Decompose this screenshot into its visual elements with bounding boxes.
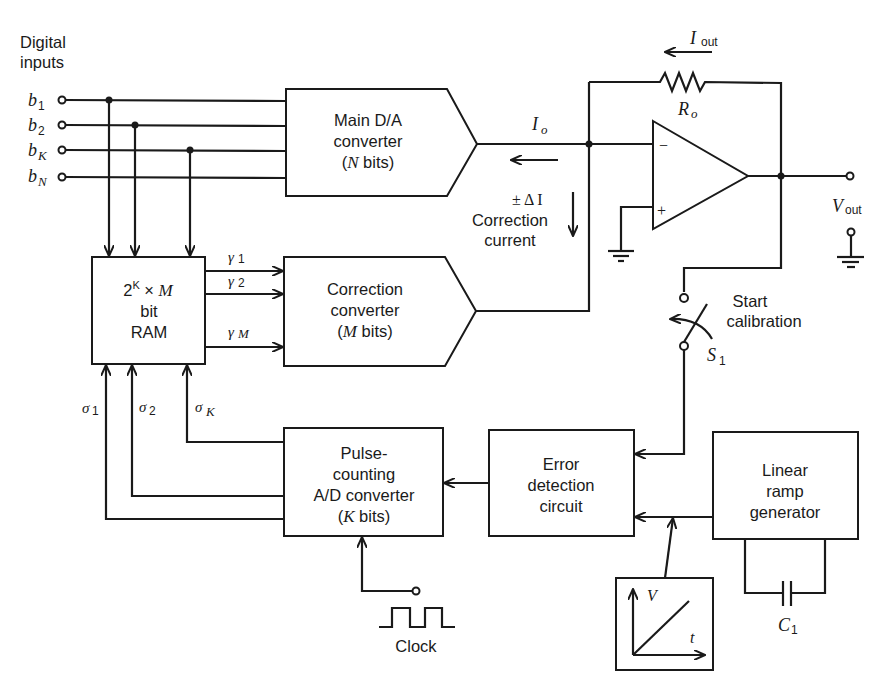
- ground-icon: [837, 257, 864, 267]
- svg-text:V: V: [832, 196, 845, 216]
- vout-label: V out: [832, 196, 862, 217]
- digital-inputs-label-1: Digital: [20, 33, 66, 51]
- svg-text:bit: bit: [140, 302, 158, 320]
- input-terminal-b1[interactable]: [59, 97, 66, 104]
- vout-terminal[interactable]: [847, 173, 854, 180]
- svg-text:R: R: [677, 99, 689, 119]
- switch-terminal-top: [680, 294, 688, 302]
- svg-text:1: 1: [92, 404, 99, 418]
- op-amp: − +: [653, 121, 748, 229]
- svg-text:1: 1: [791, 623, 798, 637]
- clock-terminal[interactable]: [413, 588, 420, 595]
- svg-text:(N bits): (N bits): [342, 153, 395, 172]
- bus-line-b1: [65, 100, 286, 101]
- clock-label: Clock: [395, 637, 437, 655]
- bit-label-b1: b 1: [28, 90, 45, 113]
- svg-text:γ: γ: [228, 273, 235, 289]
- svg-text:ramp: ramp: [766, 482, 804, 500]
- svg-text:2: 2: [149, 404, 156, 418]
- correction-current-label-2: current: [484, 231, 536, 249]
- svg-text:generator: generator: [750, 503, 821, 521]
- switch-terminal-bottom: [680, 342, 688, 350]
- correction-output-wire: [476, 275, 589, 311]
- bus-line-b2: [65, 125, 286, 126]
- summing-junction-dot: [586, 141, 593, 148]
- svg-text:converter: converter: [331, 301, 400, 319]
- svg-text:out: out: [701, 35, 718, 49]
- svg-text:b: b: [28, 166, 37, 186]
- svg-text:Main D/A: Main D/A: [334, 111, 402, 129]
- iout-label: I out: [689, 28, 718, 49]
- capacitor-wire-right: [791, 539, 825, 593]
- sigma-1-label: σ 1: [82, 400, 99, 418]
- error-detection-block: Error detection circuit: [489, 430, 634, 536]
- junction-dot: [187, 147, 194, 154]
- s1-label: S 1: [707, 345, 726, 368]
- gamma-1-label: γ 1: [228, 249, 245, 266]
- bit-label-b2: b 2: [28, 115, 45, 138]
- t-axis-label: t: [690, 629, 695, 646]
- svg-text:RAM: RAM: [131, 323, 168, 341]
- clock-waveform-icon: [379, 608, 455, 627]
- input-terminal-bn[interactable]: [59, 174, 66, 181]
- ramp-waveform-inset: V t: [616, 578, 713, 670]
- main-dac-block: Main D/A converter (N bits): [286, 89, 477, 196]
- svg-text:σ: σ: [82, 400, 90, 416]
- sigma-2-line: [132, 365, 284, 496]
- svg-text:b: b: [28, 115, 37, 135]
- svg-text:2: 2: [238, 276, 245, 290]
- gamma-2-label: γ 2: [228, 273, 245, 290]
- svg-text:o: o: [541, 122, 548, 137]
- svg-text:b: b: [28, 140, 37, 160]
- svg-text:C: C: [778, 615, 791, 635]
- dac-calibration-diagram: Digital inputs b 1 b 2 b K b N Main D/A …: [0, 0, 886, 689]
- input-terminal-bk[interactable]: [59, 147, 66, 154]
- svg-text:A/D converter: A/D converter: [314, 486, 415, 504]
- svg-text:Correction: Correction: [327, 280, 403, 298]
- capacitor-c1-icon: [783, 581, 791, 606]
- svg-text:Pulse-: Pulse-: [341, 444, 388, 462]
- svg-text:σ: σ: [195, 399, 203, 415]
- svg-text:S: S: [707, 345, 716, 365]
- svg-text:1: 1: [38, 99, 45, 113]
- start-calibration-label-1: Start: [733, 292, 768, 310]
- ram-block: 2K × M bit RAM: [92, 257, 205, 364]
- bit-label-bk: b K: [28, 140, 48, 163]
- sigma-2-label: σ 2: [139, 399, 156, 418]
- svg-text:Error: Error: [543, 455, 580, 473]
- svg-text:2: 2: [38, 124, 45, 138]
- svg-text:2K × M: 2K × M: [123, 279, 173, 300]
- svg-text:I: I: [531, 114, 539, 134]
- svg-text:(M bits): (M bits): [337, 322, 392, 341]
- clock-wire: [362, 537, 414, 591]
- io-label: I o: [531, 114, 548, 137]
- correction-current-label-1: Correction: [472, 211, 548, 229]
- svg-text:(K bits): (K bits): [338, 507, 391, 526]
- svg-text:M: M: [237, 326, 250, 341]
- svg-text:σ: σ: [139, 399, 147, 415]
- svg-text:K: K: [205, 404, 216, 419]
- svg-text:counting: counting: [333, 465, 395, 483]
- svg-text:o: o: [691, 106, 698, 121]
- noninverting-ground-wire: [621, 207, 653, 250]
- gamma-m-label: γ M: [228, 324, 250, 341]
- opamp-plus: +: [657, 202, 666, 219]
- svg-text:I: I: [689, 28, 697, 48]
- input-terminal-b2[interactable]: [59, 122, 66, 129]
- ro-label: R o: [677, 99, 698, 121]
- ramp-graph-pointer: [665, 518, 673, 578]
- svg-text:K: K: [37, 148, 48, 163]
- svg-text:b: b: [28, 90, 37, 110]
- svg-text:N: N: [37, 174, 48, 189]
- svg-text:detection: detection: [528, 476, 595, 494]
- svg-text:out: out: [845, 203, 862, 217]
- start-calibration-label-2: calibration: [726, 312, 801, 330]
- switch-to-error-wire: [635, 350, 684, 454]
- svg-text:1: 1: [238, 252, 245, 266]
- bus-line-bk: [65, 150, 286, 151]
- vout-ground-terminal[interactable]: [848, 229, 855, 236]
- ground-icon: [608, 251, 634, 261]
- svg-text:γ: γ: [228, 324, 235, 340]
- correction-converter-block: Correction converter (M bits): [284, 257, 476, 366]
- svg-text:1: 1: [719, 354, 726, 368]
